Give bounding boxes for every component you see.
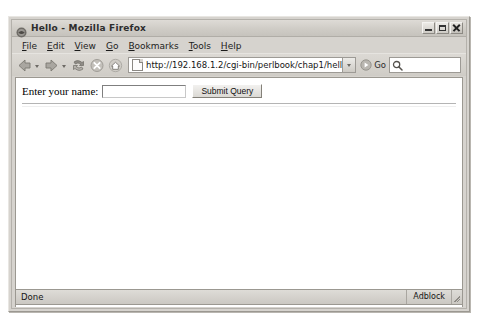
navigation-toolbar: http://192.168.1.2/cgi-bin/perlbook/chap… (12, 53, 466, 76)
reload-button[interactable] (69, 56, 88, 75)
stop-icon (89, 58, 105, 73)
search-input[interactable] (389, 57, 461, 73)
url-dropdown-button[interactable] (342, 57, 356, 73)
back-arrow-icon (16, 58, 33, 73)
search-magnifier-icon (392, 60, 403, 71)
title-bar[interactable]: Hello - Mozilla Firefox (12, 20, 466, 37)
adblock-status-button[interactable]: Adblock (406, 290, 451, 304)
menu-item-file[interactable]: File (17, 40, 42, 52)
name-form-row: Enter your name: Submit Query (16, 78, 462, 98)
horizontal-rule (22, 103, 456, 107)
menu-item-edit[interactable]: Edit (42, 40, 69, 52)
firefox-globe-icon (16, 23, 27, 34)
reload-icon (70, 58, 87, 73)
stop-button[interactable] (88, 56, 106, 75)
window-title: Hello - Mozilla Firefox (31, 23, 422, 33)
menu-item-bookmarks[interactable]: Bookmarks (123, 40, 183, 52)
menu-item-tools[interactable]: Tools (184, 40, 216, 52)
minimize-button[interactable] (422, 22, 435, 34)
go-label: Go (374, 60, 386, 70)
url-text[interactable]: http://192.168.1.2/cgi-bin/perlbook/chap… (146, 60, 342, 70)
page-content: Enter your name: Submit Query (15, 77, 463, 307)
menu-bar: File Edit View Go Bookmarks Tools Help (12, 38, 466, 53)
forward-arrow-icon (43, 58, 60, 73)
menu-item-help[interactable]: Help (216, 40, 247, 52)
back-button[interactable] (15, 56, 42, 75)
menu-item-view[interactable]: View (70, 40, 101, 52)
browser-window-inner: Hello - Mozilla Firefox File Edit View G… (11, 19, 467, 309)
status-text: Done (21, 292, 406, 302)
forward-dropdown-icon[interactable] (62, 65, 66, 68)
home-button[interactable] (106, 56, 125, 75)
window-controls (422, 22, 463, 34)
submit-query-button[interactable]: Submit Query (192, 84, 262, 98)
home-icon (107, 58, 124, 73)
forward-button[interactable] (42, 56, 69, 75)
browser-window: Hello - Mozilla Firefox File Edit View G… (8, 16, 470, 312)
go-arrow-icon (360, 59, 372, 71)
name-input[interactable] (102, 85, 186, 98)
menu-item-go[interactable]: Go (101, 40, 124, 52)
close-button[interactable] (450, 22, 463, 34)
back-dropdown-icon[interactable] (35, 65, 39, 68)
maximize-button[interactable] (436, 22, 449, 34)
url-bar[interactable]: http://192.168.1.2/cgi-bin/perlbook/chap… (128, 57, 342, 73)
go-button[interactable]: Go (360, 59, 386, 71)
screenshot-root: Hello - Mozilla Firefox File Edit View G… (0, 0, 478, 330)
chevron-down-icon (347, 64, 351, 67)
status-bar: Done Adblock (15, 289, 463, 305)
page-favicon-icon (132, 59, 143, 71)
name-field-label: Enter your name: (22, 85, 98, 97)
resize-grip[interactable] (451, 290, 462, 304)
